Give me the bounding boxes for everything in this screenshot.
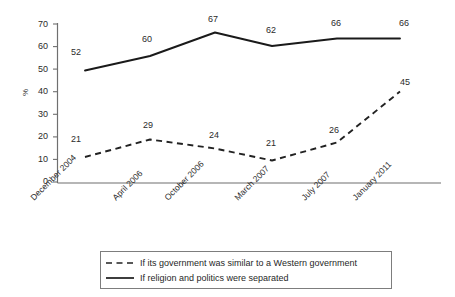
- data-label-solid-4: 66: [331, 19, 341, 28]
- y-tick-label-10: 10: [26, 155, 48, 164]
- series-line-solid: [85, 33, 400, 71]
- y-tick-label-60: 60: [26, 42, 48, 51]
- data-label-solid-2: 67: [208, 15, 218, 24]
- legend-label-solid: If religion and politics were separated: [140, 273, 289, 283]
- data-label-dashed-2: 24: [209, 131, 219, 140]
- data-label-dashed-1: 29: [143, 121, 153, 130]
- data-label-dashed-4: 26: [329, 126, 339, 135]
- y-tick-label-50: 50: [26, 65, 48, 74]
- y-tick-label-40: 40: [26, 87, 48, 96]
- dashed-line-icon: [105, 258, 135, 268]
- data-label-solid-5: 66: [399, 19, 409, 28]
- data-label-solid-0: 52: [71, 48, 81, 57]
- y-axis-ticks: [53, 24, 58, 182]
- data-label-solid-3: 62: [266, 26, 276, 35]
- legend: If its government was similar to a Weste…: [100, 251, 392, 289]
- legend-item-dashed: If its government was similar to a Weste…: [105, 255, 391, 270]
- legend-item-solid: If religion and politics were separated: [105, 270, 391, 285]
- data-label-solid-1: 60: [142, 35, 152, 44]
- data-label-dashed-0: 21: [71, 135, 81, 144]
- y-tick-label-70: 70: [26, 20, 48, 29]
- y-tick-label-20: 20: [26, 132, 48, 141]
- chart-page: % 70 60 50 40 30 20 10 0 December 2004 A…: [0, 0, 455, 297]
- y-tick-label-30: 30: [26, 110, 48, 119]
- series-line-dashed: [85, 92, 400, 161]
- legend-label-dashed: If its government was similar to a Weste…: [140, 258, 357, 268]
- data-label-dashed-3: 21: [266, 139, 276, 148]
- solid-line-icon: [105, 273, 135, 283]
- data-label-dashed-5: 45: [400, 78, 410, 87]
